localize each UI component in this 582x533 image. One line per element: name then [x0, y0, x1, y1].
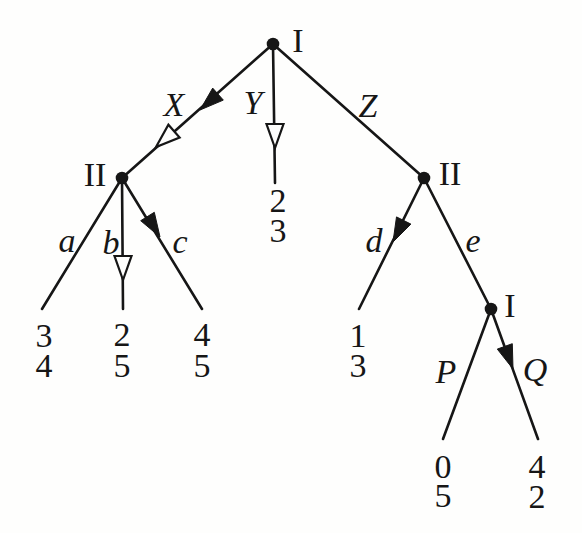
node-dot-left [116, 172, 129, 185]
filled-arrowhead-icon-edge-c [141, 212, 160, 237]
edge-Y [273, 44, 275, 183]
payoff-c-player2: 5 [194, 347, 211, 384]
edge-label-b: b [103, 224, 120, 261]
filled-arrowhead-icon-edge-d [393, 217, 411, 242]
payoff-Q-player2: 2 [529, 478, 546, 515]
payoff-P-player2: 5 [435, 477, 452, 514]
open-arrowheads [115, 124, 284, 280]
edge-b [122, 178, 123, 309]
open-arrowhead-icon-edge-Y [267, 124, 284, 148]
edge-label-P: P [435, 353, 457, 390]
node-dot-right [418, 172, 431, 185]
payoff-Y-player2: 3 [270, 212, 287, 249]
node-dot-lower [485, 303, 498, 316]
edge-label-Q: Q [523, 351, 548, 388]
node-dot-root [267, 38, 280, 51]
edge-label-Y: Y [244, 84, 266, 121]
game-tree-svg: I II II I X Y Z a b c d e P Q 2 3 3 4 2 … [0, 0, 582, 533]
edge-label-Z: Z [359, 87, 379, 124]
payoff-b-player2: 5 [114, 347, 131, 384]
game-tree-figure: I II II I X Y Z a b c d e P Q 2 3 3 4 2 … [0, 0, 582, 533]
payoff-a-player2: 4 [36, 347, 53, 384]
edge-Z [273, 44, 424, 178]
node-label-root: I [292, 22, 303, 59]
node-label-right: II [439, 155, 462, 192]
edge-c [122, 178, 202, 309]
edge-label-a: a [59, 222, 76, 259]
edge-labels: X Y Z a b c d e P Q [59, 84, 548, 390]
node-label-left: II [84, 156, 107, 193]
edge-label-c: c [172, 223, 187, 260]
edge-label-e: e [465, 222, 480, 259]
open-arrowhead-icon-edge-X [156, 125, 180, 147]
filled-arrowhead-icon-edge-Q [497, 344, 513, 369]
node-label-lower: I [504, 287, 515, 324]
edge-e [424, 178, 491, 309]
payoff-d-player2: 3 [350, 347, 367, 384]
edge-label-d: d [366, 222, 384, 259]
edge-label-X: X [162, 86, 186, 123]
